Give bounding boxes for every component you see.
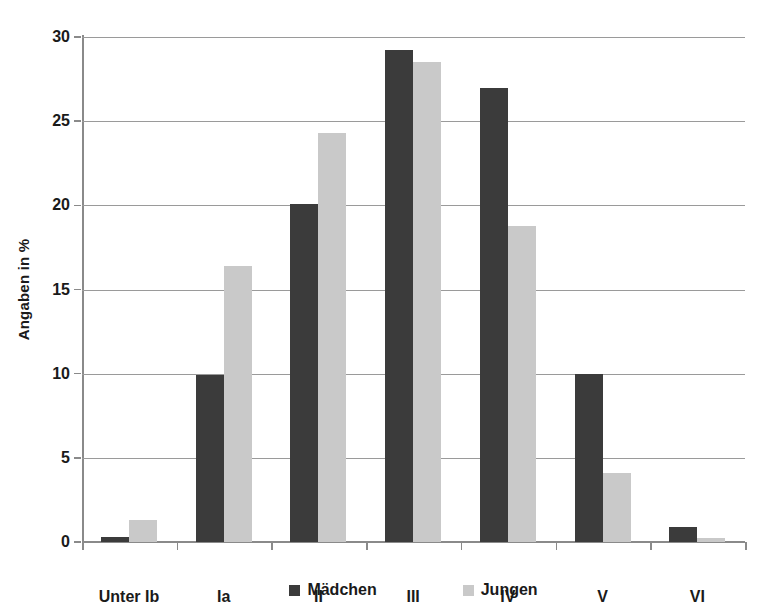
y-tick-label: 10: [52, 366, 70, 382]
bar: [196, 375, 224, 542]
x-tick-mark: [177, 542, 179, 550]
bar: [669, 527, 697, 542]
bar: [224, 266, 252, 542]
y-tick-mark: [74, 289, 81, 291]
bar-group: [366, 37, 461, 542]
x-tick-mark: [556, 542, 558, 550]
bar-group: [82, 37, 177, 542]
y-tick-label: 20: [52, 197, 70, 213]
y-tick-mark: [74, 373, 81, 375]
bar: [480, 88, 508, 543]
legend-item[interactable]: Mädchen: [289, 582, 376, 598]
y-tick-mark: [74, 36, 81, 38]
bar: [129, 520, 157, 542]
bar: [575, 374, 603, 542]
x-tick-mark: [82, 542, 84, 550]
x-tick-mark: [745, 542, 747, 550]
bar-group: [650, 37, 745, 542]
bar: [290, 204, 318, 542]
legend-label: Jungen: [481, 582, 538, 598]
bar: [603, 473, 631, 542]
y-tick-mark: [74, 457, 81, 459]
bar: [101, 537, 129, 542]
y-tick-mark: [74, 120, 81, 122]
y-tick-label: 15: [52, 282, 70, 298]
legend-item[interactable]: Jungen: [463, 582, 538, 598]
bar-group: [177, 37, 272, 542]
bar: [413, 62, 441, 542]
bar: [697, 538, 725, 542]
y-tick-label: 0: [61, 534, 70, 550]
y-tick-label: 5: [61, 450, 70, 466]
plot-area: 051015202530Unter IbIaIIIIIIVVVI: [82, 37, 745, 542]
x-tick-mark: [271, 542, 273, 550]
chart-legend: MädchenJungen: [82, 582, 745, 598]
bar-group: [461, 37, 556, 542]
legend-swatch-icon: [463, 585, 474, 596]
bar: [318, 133, 346, 542]
x-tick-mark: [366, 542, 368, 550]
bar-chart: Angaben in % 051015202530Unter IbIaIIIII…: [0, 0, 760, 616]
x-tick-mark: [461, 542, 463, 550]
y-tick-label: 25: [52, 113, 70, 129]
y-axis-title: Angaben in %: [8, 37, 38, 542]
bar-group: [271, 37, 366, 542]
y-tick-mark: [74, 541, 81, 543]
bar: [508, 226, 536, 542]
bar-group: [556, 37, 651, 542]
x-tick-mark: [650, 542, 652, 550]
legend-swatch-icon: [289, 585, 300, 596]
legend-label: Mädchen: [307, 582, 376, 598]
y-tick-mark: [74, 205, 81, 207]
bar: [385, 50, 413, 542]
y-tick-label: 30: [52, 29, 70, 45]
